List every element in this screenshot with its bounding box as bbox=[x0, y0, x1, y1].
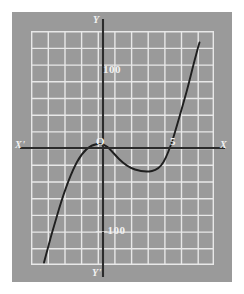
x-tick-label-5: 5 bbox=[170, 136, 176, 147]
x-axis-left-label: X' bbox=[15, 140, 25, 150]
y-tick-label-neg100: —100 bbox=[96, 225, 126, 236]
y-tick-label-100: 100 bbox=[103, 64, 121, 75]
y-axis-top-label: Y bbox=[93, 15, 100, 25]
origin-label: O bbox=[96, 136, 105, 147]
x-axis-right-label: X bbox=[220, 140, 227, 150]
chart-figure: 100 —100 O 5 X' X Y Y' bbox=[0, 0, 244, 294]
chart-panel: 100 —100 O 5 X' X Y Y' bbox=[12, 12, 232, 282]
y-axis-bottom-label: Y' bbox=[92, 268, 102, 278]
